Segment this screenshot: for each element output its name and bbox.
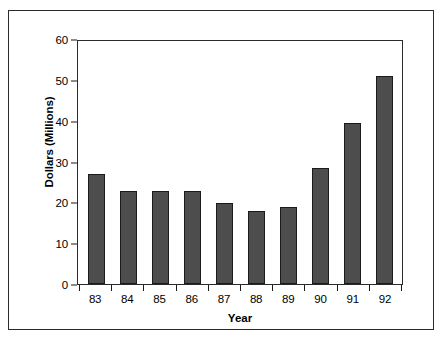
bar-slot	[176, 41, 208, 284]
bar-slot	[304, 41, 336, 284]
y-axis-tick-label: 0	[36, 279, 68, 291]
x-axis-tick-label: 85	[143, 293, 175, 305]
bar-slot	[240, 41, 272, 284]
chart-page: Dollars (Millions) 0102030405060 8384858…	[0, 0, 444, 346]
x-axis-tick-mark	[208, 285, 209, 291]
y-axis-tick-mark	[71, 40, 77, 41]
y-axis-tick-mark	[71, 121, 77, 122]
bar	[280, 207, 297, 284]
x-axis-tick-mark	[272, 285, 273, 291]
x-axis-tick-mark	[79, 285, 80, 291]
bar-slot	[336, 41, 368, 284]
y-axis-tick-label: 60	[36, 34, 68, 46]
bar-slot	[272, 41, 304, 284]
x-axis-tick-mark	[304, 285, 305, 291]
y-axis-tick-label: 50	[36, 75, 68, 87]
x-axis-tick-mark	[369, 285, 370, 291]
x-axis-tick-labels: 83848586878889909192	[77, 293, 403, 305]
bar	[216, 203, 233, 284]
x-axis-tick-label: 89	[272, 293, 304, 305]
bar	[312, 168, 329, 284]
y-axis-tick-mark	[71, 162, 77, 163]
x-axis-tick-label: 84	[111, 293, 143, 305]
x-axis-tick-label: 88	[240, 293, 272, 305]
bar	[376, 76, 393, 284]
x-axis-tick-mark	[240, 285, 241, 291]
x-axis-tick-label: 92	[369, 293, 401, 305]
y-axis-tick-mark	[71, 285, 77, 286]
bar	[184, 191, 201, 284]
y-axis-tick-label: 30	[36, 157, 68, 169]
x-axis-tick-mark	[111, 285, 112, 291]
y-axis-tick-mark	[71, 244, 77, 245]
bar	[248, 211, 265, 284]
y-axis-tick-label: 20	[36, 197, 68, 209]
x-axis-title: Year	[77, 312, 403, 324]
bar-slot	[208, 41, 240, 284]
y-axis-tick-label: 40	[36, 116, 68, 128]
bar-slot	[368, 41, 400, 284]
x-axis-tick-label: 91	[337, 293, 369, 305]
bar-series	[78, 41, 402, 284]
x-axis-tick-label: 90	[304, 293, 336, 305]
x-axis-tick-label: 86	[176, 293, 208, 305]
x-axis-tick-label: 83	[79, 293, 111, 305]
y-axis-tick-mark	[71, 80, 77, 81]
x-axis-tick-mark	[337, 285, 338, 291]
y-axis-tick-labels: 0102030405060	[36, 34, 68, 280]
bar-chart-figure: Dollars (Millions) 0102030405060 8384858…	[8, 10, 434, 330]
x-axis-tick-mark	[176, 285, 177, 291]
bar	[152, 191, 169, 284]
bar-slot	[144, 41, 176, 284]
x-axis-tick-marks	[77, 285, 403, 292]
x-axis-tick-mark	[401, 285, 402, 291]
bar	[120, 191, 137, 284]
y-axis-tick-label: 10	[36, 238, 68, 250]
bar-slot	[80, 41, 112, 284]
bar	[344, 123, 361, 284]
x-axis-tick-label: 87	[208, 293, 240, 305]
bar	[88, 174, 105, 284]
y-axis-tick-mark	[71, 203, 77, 204]
plot-area	[77, 40, 403, 285]
x-axis-tick-mark	[143, 285, 144, 291]
bar-slot	[112, 41, 144, 284]
